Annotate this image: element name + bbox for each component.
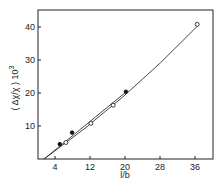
y-tick-label: 40 [25,22,35,32]
filled-data-point [70,131,74,135]
data-points [58,22,199,146]
x-tick-label: 4 [52,162,57,172]
y-axis-title-exponent: 3 [8,65,15,69]
open-data-point [64,141,68,145]
open-data-point [111,103,115,107]
x-axis-title: l/b [120,170,130,180]
x-tick-label: 36 [190,162,200,172]
x-tick-label: 28 [155,162,165,172]
fit-lines [44,26,197,159]
fit-curve-open [44,26,197,159]
y-tick-label: 20 [25,88,35,98]
y-tick-label: 10 [25,121,35,131]
filled-data-point [58,142,62,146]
plot-frame [38,10,213,159]
y-axis-title-group: ( Δχ/χ ) 103 [8,65,20,110]
x-tick-label: 12 [85,162,95,172]
open-data-point [89,121,93,125]
chart-svg: 412202836 10203040 l/b ( Δχ/χ ) 103 [0,0,223,187]
open-data-point [195,22,199,26]
y-tick-label: 30 [25,55,35,65]
y-axis-title: ( Δχ/χ ) 103 [8,65,20,110]
y-ticks: 10203040 [25,22,41,131]
filled-data-point [124,90,128,94]
fit-line-filled [44,91,127,159]
y-axis-title-main: ( Δχ/χ ) 10 [10,69,20,110]
